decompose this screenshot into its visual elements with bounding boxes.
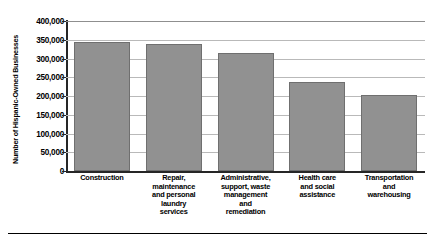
y-axis-tick: [62, 21, 66, 22]
category-label-line: warehousing: [355, 191, 423, 200]
y-axis-tick-label: 300,000: [18, 54, 64, 63]
bar: [361, 95, 417, 171]
y-axis-tick-label: 350,000: [18, 35, 64, 44]
y-axis-tick-label: 250,000: [18, 73, 64, 82]
y-axis-tick: [62, 171, 66, 172]
x-axis-category-labels: ConstructionRepair,maintenanceand person…: [66, 174, 425, 236]
bottom-divider: [8, 233, 427, 235]
bar-chart: Number of Hispanic-Owned Businesses 400,…: [0, 0, 435, 242]
category-label-line: Construction: [68, 174, 136, 183]
category-label-line: services: [140, 208, 208, 217]
plot-area: [66, 21, 425, 171]
y-axis-tick-labels: 400,000350,000300,000250,000200,000150,0…: [18, 0, 64, 242]
gridline: [66, 40, 425, 41]
y-axis-tick: [62, 115, 66, 116]
x-axis-category-label: Transportationandwarehousing: [355, 174, 423, 200]
x-axis-category-label: Health careand socialassistance: [283, 174, 351, 200]
y-axis-tick-label: 50,000: [18, 148, 64, 157]
y-axis-tick: [62, 134, 66, 135]
bar: [289, 82, 345, 171]
bar: [218, 53, 274, 171]
y-axis-tick: [62, 59, 66, 60]
x-axis-category-label: Repair,maintenanceand personallaundryser…: [140, 174, 208, 217]
category-label-line: assistance: [283, 191, 351, 200]
y-axis-tick: [62, 96, 66, 97]
y-axis-tick-label: 400,000: [18, 17, 64, 26]
x-axis-category-label: Construction: [68, 174, 136, 183]
y-axis-tick-label: 100,000: [18, 129, 64, 138]
category-label-line: remediation: [212, 208, 280, 217]
y-axis-tick: [62, 152, 66, 153]
bar: [146, 44, 202, 171]
y-axis-tick-label: 200,000: [18, 92, 64, 101]
y-axis-tick-label: 150,000: [18, 110, 64, 119]
bar: [74, 42, 130, 171]
y-axis-tick: [62, 40, 66, 41]
x-axis-category-label: Administrative,support, wastemanagementa…: [212, 174, 280, 217]
y-axis-tick: [62, 77, 66, 78]
gridline: [66, 21, 425, 22]
y-axis-tick-label: 0: [18, 167, 64, 176]
